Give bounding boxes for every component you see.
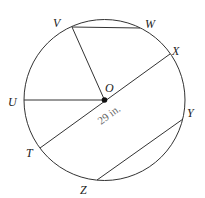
chord-ZY [97,119,183,180]
center-point [102,97,108,103]
label-V: V [53,16,62,30]
circle-diagram: V W X O U Y T Z 29 in. [0,0,205,198]
label-O: O [105,81,114,95]
label-Z: Z [80,183,87,197]
chord-VW [72,27,140,28]
label-U: U [8,95,18,109]
radius-OV [72,27,105,100]
label-W: W [145,17,156,31]
label-T: T [26,146,34,160]
label-X: X [171,44,180,58]
label-Y: Y [187,106,195,120]
